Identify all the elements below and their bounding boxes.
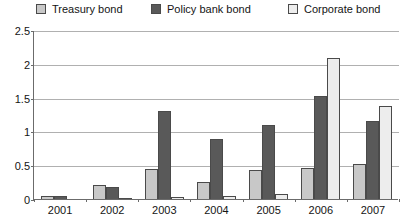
bar[interactable] <box>301 168 314 199</box>
bar[interactable] <box>119 198 132 199</box>
y-axis-tick-label: 2.5 <box>15 26 30 37</box>
bar[interactable] <box>314 96 327 199</box>
bar[interactable] <box>379 106 392 199</box>
bar-group-bars <box>138 31 190 199</box>
x-axis-tick-mark <box>295 199 296 202</box>
legend-label: Corporate bond <box>304 3 380 15</box>
bar[interactable] <box>210 139 223 199</box>
bar[interactable] <box>249 170 262 199</box>
bar[interactable] <box>262 125 275 199</box>
legend-swatch-icon <box>151 4 161 14</box>
bar-group-bars <box>347 31 399 199</box>
x-axis-tick-mark <box>86 199 87 202</box>
bar[interactable] <box>327 58 340 199</box>
legend-label: Policy bank bond <box>167 3 251 15</box>
bar[interactable] <box>93 185 106 199</box>
bar[interactable] <box>223 196 236 199</box>
x-axis-tick-mark <box>190 199 191 202</box>
legend-item[interactable]: Policy bank bond <box>151 3 251 15</box>
plot-area: 00.511.522.52001200220032004200520062007 <box>33 31 398 200</box>
bar[interactable] <box>197 182 210 199</box>
bar-group-bars <box>190 31 242 199</box>
bar-group-bars <box>34 31 86 199</box>
y-axis-tick-label: 1 <box>24 127 30 138</box>
y-axis-tick-label: 2 <box>24 59 30 70</box>
bar-group-bars <box>86 31 138 199</box>
chart-legend: Treasury bondPolicy bank bondCorporate b… <box>0 0 404 22</box>
x-axis-tick-label: 2006 <box>309 204 333 216</box>
legend-item[interactable]: Treasury bond <box>36 3 123 15</box>
bar-group: 2005 <box>243 31 295 199</box>
bar-group: 2001 <box>34 31 86 199</box>
x-axis-tick-mark <box>34 199 35 202</box>
y-axis-tick-label: 0 <box>24 195 30 206</box>
bar-group-bars <box>243 31 295 199</box>
bar[interactable] <box>366 121 379 199</box>
x-axis-tick-mark <box>138 199 139 202</box>
x-axis-tick-label: 2003 <box>152 204 176 216</box>
bar-group: 2006 <box>295 31 347 199</box>
bar-group: 2003 <box>138 31 190 199</box>
x-axis-tick-label: 2007 <box>361 204 385 216</box>
x-axis-tick-label: 2001 <box>48 204 72 216</box>
x-axis-tick-mark <box>347 199 348 202</box>
x-axis-tick-mark <box>243 199 244 202</box>
bar-chart: Treasury bondPolicy bank bondCorporate b… <box>0 0 404 223</box>
x-axis-tick-label: 2005 <box>256 204 280 216</box>
bar[interactable] <box>158 111 171 199</box>
y-axis-tick-label: 0.5 <box>15 161 30 172</box>
legend-item[interactable]: Corporate bond <box>288 3 380 15</box>
bar[interactable] <box>275 194 288 199</box>
x-axis-tick-label: 2002 <box>100 204 124 216</box>
bar[interactable] <box>145 169 158 199</box>
bar-group: 2002 <box>86 31 138 199</box>
legend-swatch-icon <box>288 4 298 14</box>
legend-swatch-icon <box>36 4 46 14</box>
y-axis-tick-label: 1.5 <box>15 93 30 104</box>
bar-group: 2004 <box>190 31 242 199</box>
bar[interactable] <box>353 164 366 199</box>
bar[interactable] <box>41 196 54 199</box>
bar-group-bars <box>295 31 347 199</box>
x-axis-tick-mark <box>399 199 400 202</box>
bar[interactable] <box>106 187 119 199</box>
x-axis-tick-label: 2004 <box>204 204 228 216</box>
bar-group: 2007 <box>347 31 399 199</box>
bar[interactable] <box>54 196 67 199</box>
bar[interactable] <box>171 197 184 199</box>
legend-label: Treasury bond <box>52 3 123 15</box>
